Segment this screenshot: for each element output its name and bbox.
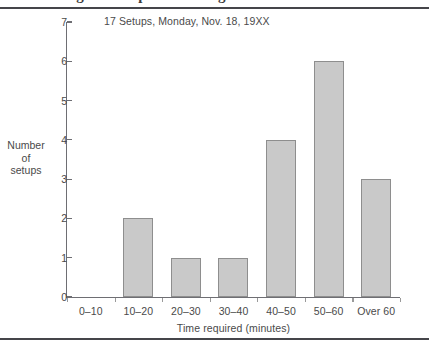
x-tick-mark — [162, 298, 163, 302]
y-tick-label: 0 — [45, 292, 67, 303]
x-tick-label: 20–30 — [162, 305, 210, 317]
frame-rule-top — [0, 7, 429, 9]
x-tick-mark — [210, 298, 211, 302]
y-tick-label: 1 — [45, 253, 67, 264]
x-tick-label: 50–60 — [305, 305, 353, 317]
x-tick-mark — [257, 298, 258, 302]
frame-rule-bottom — [0, 338, 429, 340]
bar-slot — [257, 22, 305, 297]
bar-slot — [352, 22, 400, 297]
y-axis-title: Number of setups — [2, 139, 50, 177]
x-tick-label: 30–40 — [210, 305, 258, 317]
bar-slot — [115, 22, 163, 297]
clipped-heading: Figure setup time histogram — [62, 0, 362, 7]
y-tick-label: 7 — [45, 17, 67, 28]
bar[interactable] — [266, 140, 296, 297]
y-tick-label: 6 — [45, 56, 67, 67]
bar[interactable] — [123, 218, 153, 297]
x-tick-label: 10–20 — [115, 305, 163, 317]
x-tick-mark — [115, 298, 116, 302]
bar[interactable] — [218, 258, 248, 297]
x-tick-mark — [352, 298, 353, 302]
bar-slot — [162, 22, 210, 297]
y-tick-label: 5 — [45, 96, 67, 107]
figure-histogram: Figure setup time histogram 17 Setups, M… — [0, 0, 429, 346]
bar-slot — [210, 22, 258, 297]
bar-series — [67, 22, 400, 297]
y-axis-title-line-3: setups — [2, 164, 50, 177]
x-tick-mark — [400, 298, 401, 302]
y-axis-title-line-2: of — [2, 152, 50, 165]
y-axis-title-line-1: Number — [2, 139, 50, 152]
y-tick-label: 2 — [45, 213, 67, 224]
x-tick-label: 40–50 — [257, 305, 305, 317]
bar[interactable] — [361, 179, 391, 297]
x-tick-mark — [305, 298, 306, 302]
bar[interactable] — [314, 61, 344, 297]
bar[interactable] — [171, 258, 201, 297]
x-axis-title: Time required (minutes) — [67, 322, 400, 334]
bar-slot — [305, 22, 353, 297]
bar-slot — [67, 22, 115, 297]
x-tick-label: 0–10 — [67, 305, 115, 317]
x-tick-label: Over 60 — [352, 305, 400, 317]
x-tick-mark — [67, 298, 68, 302]
